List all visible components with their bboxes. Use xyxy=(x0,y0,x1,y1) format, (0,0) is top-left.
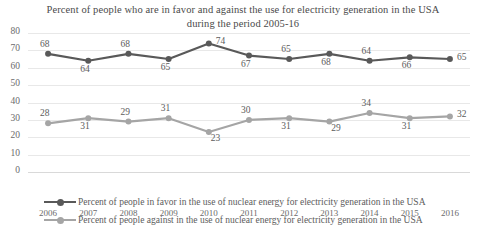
gridline-0 xyxy=(28,172,470,173)
y-axis-tick-80: 80 xyxy=(0,26,20,36)
chart-container: Percent of people who are in favor and a… xyxy=(0,0,486,234)
data-point[interactable] xyxy=(125,51,131,57)
data-label: 68 xyxy=(120,39,130,49)
data-point[interactable] xyxy=(367,110,373,116)
y-axis-tick-70: 70 xyxy=(0,43,20,53)
data-label: 64 xyxy=(80,64,90,74)
data-point[interactable] xyxy=(125,119,131,125)
data-label: 29 xyxy=(120,107,130,117)
chart-title-line-1: Percent of people who are in favor and a… xyxy=(47,4,341,15)
data-label: 31 xyxy=(402,121,412,131)
series-layer xyxy=(28,33,470,172)
chart-title: Percent of people who are in favor and a… xyxy=(40,3,446,30)
y-axis-tick-30: 30 xyxy=(0,113,20,123)
chart-legend: Percent of people in favor in the use of… xyxy=(44,193,474,229)
data-label: 30 xyxy=(241,105,251,115)
data-label: 32 xyxy=(457,109,467,119)
data-point[interactable] xyxy=(367,58,373,64)
data-point[interactable] xyxy=(286,56,292,62)
legend-label-favor: Percent of people in favor in the use of… xyxy=(76,197,426,207)
data-label: 28 xyxy=(40,108,50,118)
data-point[interactable] xyxy=(447,56,453,62)
y-axis-tick-50: 50 xyxy=(0,78,20,88)
data-label: 68 xyxy=(321,57,331,67)
data-label: 23 xyxy=(211,133,221,143)
legend-label-against: Percent of people against in the use of … xyxy=(76,215,423,225)
data-label: 65 xyxy=(281,44,291,54)
data-label: 74 xyxy=(216,36,226,46)
data-label: 67 xyxy=(241,59,251,69)
data-label: 68 xyxy=(40,39,50,49)
data-point[interactable] xyxy=(45,51,51,57)
data-label: 31 xyxy=(80,121,90,131)
data-point[interactable] xyxy=(45,120,51,126)
legend-marker-favor xyxy=(44,197,76,207)
data-label: 64 xyxy=(362,46,372,56)
data-label: 66 xyxy=(402,60,412,70)
legend-item-favor[interactable]: Percent of people in favor in the use of… xyxy=(44,193,474,211)
data-label: 31 xyxy=(281,121,291,131)
y-axis-tick-60: 60 xyxy=(0,61,20,71)
data-point[interactable] xyxy=(447,113,453,119)
data-point[interactable] xyxy=(166,115,172,121)
data-label: 65 xyxy=(457,52,467,62)
y-axis-tick-40: 40 xyxy=(0,96,20,106)
data-label: 34 xyxy=(362,98,372,108)
data-label: 31 xyxy=(161,103,171,113)
legend-item-against[interactable]: Percent of people against in the use of … xyxy=(44,211,474,229)
y-axis-tick-10: 10 xyxy=(0,148,20,158)
plot-area: 0102030405060708020062007200820092010201… xyxy=(28,33,470,172)
data-label: 65 xyxy=(161,62,171,72)
data-label: 29 xyxy=(331,123,341,133)
data-point[interactable] xyxy=(246,117,252,123)
y-axis-tick-0: 0 xyxy=(0,165,20,175)
data-point[interactable] xyxy=(206,40,212,46)
legend-marker-against xyxy=(44,215,76,225)
y-axis-tick-20: 20 xyxy=(0,130,20,140)
